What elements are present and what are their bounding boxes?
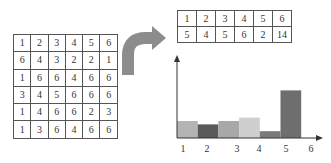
bars bbox=[177, 90, 301, 138]
grid-cell: 1 bbox=[100, 52, 117, 69]
grid-cell: 6 bbox=[100, 86, 117, 103]
grid-cell: 6 bbox=[65, 104, 82, 121]
grid-cell: 6 bbox=[100, 35, 117, 52]
frequency-table: 123456 5456214 bbox=[177, 10, 292, 43]
grid-row: 643221 bbox=[14, 52, 118, 69]
grid-cell: 4 bbox=[31, 104, 48, 121]
frequency-counts-row: 5456214 bbox=[178, 27, 292, 43]
grid-cell: 4 bbox=[65, 35, 82, 52]
grid-cell: 2 bbox=[65, 52, 82, 69]
count-cell: 4 bbox=[197, 27, 216, 43]
grid-cell: 3 bbox=[14, 86, 31, 103]
bar bbox=[177, 121, 198, 138]
grid-cell: 2 bbox=[83, 52, 100, 69]
bar bbox=[218, 121, 239, 138]
value-cell: 5 bbox=[254, 11, 273, 27]
grid-cell: 2 bbox=[31, 35, 48, 52]
x-tick-label: 5 bbox=[284, 143, 289, 154]
grid-cell: 5 bbox=[83, 35, 100, 52]
grid-cell: 6 bbox=[31, 69, 48, 86]
grid-cell: 6 bbox=[83, 69, 100, 86]
grid-cell: 1 bbox=[14, 104, 31, 121]
bar bbox=[239, 118, 260, 138]
grid-cell: 4 bbox=[31, 52, 48, 69]
count-cell: 5 bbox=[216, 27, 235, 43]
value-cell: 3 bbox=[216, 11, 235, 27]
x-tick-label: 3 bbox=[235, 143, 240, 154]
bar bbox=[281, 90, 302, 138]
frequency-bar-chart: 123456 bbox=[160, 50, 331, 163]
x-tick-label: 1 bbox=[181, 143, 186, 154]
grid-cell: 6 bbox=[100, 121, 117, 138]
grid-row: 166466 bbox=[14, 69, 118, 86]
grid-cell: 6 bbox=[48, 69, 65, 86]
frequency-values-row: 123456 bbox=[178, 11, 292, 27]
x-tick-label: 6 bbox=[309, 143, 314, 154]
grid-cell: 3 bbox=[48, 35, 65, 52]
bar bbox=[198, 124, 219, 138]
count-cell: 5 bbox=[178, 27, 197, 43]
grid-cell: 4 bbox=[31, 86, 48, 103]
y-axis-arrow-icon bbox=[174, 55, 180, 62]
grid-cell: 6 bbox=[83, 86, 100, 103]
grid-row: 136466 bbox=[14, 121, 118, 138]
grid-row: 146623 bbox=[14, 104, 118, 121]
bar bbox=[260, 131, 281, 138]
value-cell: 2 bbox=[197, 11, 216, 27]
count-cell: 14 bbox=[273, 27, 292, 43]
x-axis-arrow-icon bbox=[316, 135, 323, 141]
count-cell: 2 bbox=[254, 27, 273, 43]
x-tick-label: 2 bbox=[205, 143, 210, 154]
dice-roll-grid: 123456643221166466345666146623136466 bbox=[13, 34, 118, 139]
grid-cell: 6 bbox=[48, 121, 65, 138]
grid-cell: 4 bbox=[65, 121, 82, 138]
grid-cell: 5 bbox=[48, 86, 65, 103]
grid-cell: 1 bbox=[14, 121, 31, 138]
value-cell: 6 bbox=[273, 11, 292, 27]
grid-cell: 3 bbox=[100, 104, 117, 121]
grid-cell: 6 bbox=[48, 104, 65, 121]
grid-cell: 4 bbox=[65, 69, 82, 86]
grid-cell: 2 bbox=[83, 104, 100, 121]
grid-cell: 6 bbox=[100, 69, 117, 86]
grid-row: 345666 bbox=[14, 86, 118, 103]
value-cell: 4 bbox=[235, 11, 254, 27]
grid-row: 123456 bbox=[14, 35, 118, 52]
grid-cell: 3 bbox=[48, 52, 65, 69]
value-cell: 1 bbox=[178, 11, 197, 27]
x-tick-label: 4 bbox=[257, 143, 262, 154]
grid-cell: 1 bbox=[14, 69, 31, 86]
grid-cell: 6 bbox=[83, 121, 100, 138]
x-tick-labels: 123456 bbox=[181, 143, 314, 154]
grid-cell: 3 bbox=[31, 121, 48, 138]
count-cell: 6 bbox=[235, 27, 254, 43]
grid-cell: 6 bbox=[65, 86, 82, 103]
grid-cell: 1 bbox=[14, 35, 31, 52]
grid-cell: 6 bbox=[14, 52, 31, 69]
